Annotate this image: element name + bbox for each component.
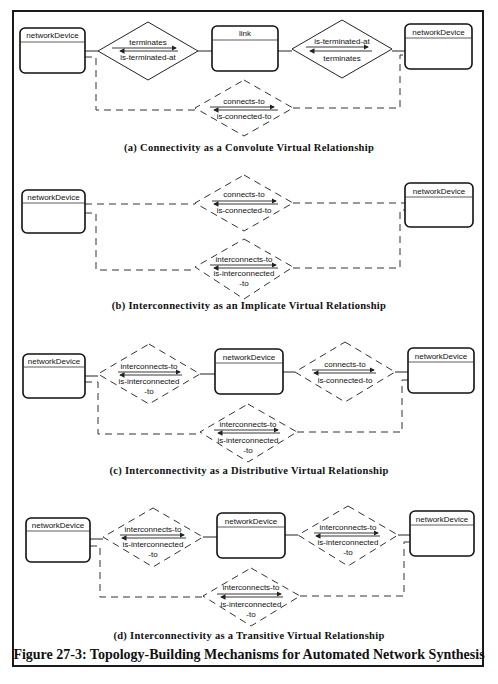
svg-text:is-connected-to: is-connected-to <box>217 206 272 215</box>
svg-text:terminates: terminates <box>129 38 166 47</box>
svg-text:networkDevice: networkDevice <box>225 517 278 526</box>
entity-network-device: networkDevice <box>217 513 285 558</box>
svg-text:networkDevice: networkDevice <box>413 187 466 196</box>
svg-text:interconnects-to: interconnects-to <box>216 255 273 264</box>
svg-text:networkDevice: networkDevice <box>415 352 468 361</box>
entity-network-device: networkDevice <box>405 183 473 227</box>
relationship-is-terminated-at: is-terminated-at terminates <box>292 20 392 78</box>
svg-text:-to: -to <box>144 387 154 396</box>
svg-text:link: link <box>239 29 252 38</box>
svg-text:interconnects-to: interconnects-to <box>223 583 280 592</box>
svg-text:-to: -to <box>243 446 253 455</box>
virtual-relationship-connects-to: connects-to is-connected-to <box>195 80 293 136</box>
svg-text:is-terminated-at: is-terminated-at <box>314 37 370 46</box>
svg-text:interconnects-to: interconnects-to <box>220 420 277 429</box>
svg-text:is-interconnected: is-interconnected <box>318 538 379 547</box>
svg-text:-to: -to <box>343 548 353 557</box>
entity-network-device: networkDevice <box>215 349 283 394</box>
virtual-relationship-interconnects-to: interconnects-to is-interconnected -to <box>200 404 297 462</box>
svg-text:connects-to: connects-to <box>324 360 366 369</box>
svg-text:networkDevice: networkDevice <box>416 515 469 524</box>
svg-text:is-interconnected: is-interconnected <box>123 540 184 549</box>
entity-network-device: networkDevice <box>22 190 85 233</box>
svg-text:-to: -to <box>246 610 256 619</box>
svg-text:is-interconnected: is-interconnected <box>218 436 279 445</box>
svg-text:-to: -to <box>148 550 158 559</box>
panel-caption-c: (c) Interconnectivity as a Distributive … <box>0 465 498 476</box>
svg-text:networkDevice: networkDevice <box>27 193 80 202</box>
virtual-relationship-connects-to: connects-to is-connected-to <box>295 342 395 402</box>
svg-text:interconnects-to: interconnects-to <box>320 523 377 532</box>
svg-text:is-connected-to: is-connected-to <box>318 376 373 385</box>
svg-text:networkDevice: networkDevice <box>26 31 79 40</box>
svg-text:is-terminated-at: is-terminated-at <box>120 53 176 62</box>
panel-b: networkDevice connects-to is-connected-t… <box>22 175 473 299</box>
svg-text:interconnects-to: interconnects-to <box>121 362 178 371</box>
entity-network-device: networkDevice <box>410 511 474 556</box>
svg-text:connects-to: connects-to <box>223 190 265 199</box>
panel-caption-d: (d) Interconnectivity as a Transitive Vi… <box>0 630 498 641</box>
figure-title: Figure 27-3: Topology-Building Mechanism… <box>0 647 498 663</box>
virtual-relationship-interconnects-to: interconnects-to is-interconnected -to <box>103 508 203 567</box>
relationship-terminates: terminates is-terminated-at <box>98 22 198 80</box>
svg-text:is-interconnected: is-interconnected <box>214 269 275 278</box>
entity-link: link <box>212 26 278 71</box>
entity-network-device: networkDevice <box>20 28 85 73</box>
entity-network-device: networkDevice <box>408 348 474 393</box>
entity-network-device: networkDevice <box>26 518 90 562</box>
svg-text:networkDevice: networkDevice <box>28 357 81 366</box>
panel-caption-b: (b) Interconnectivity as an Implicate Vi… <box>0 300 498 311</box>
panel-d: networkDevice interconnects-to is-interc… <box>26 506 474 626</box>
panel-a: networkDevice terminates is-terminated-a… <box>20 20 472 136</box>
svg-text:networkDevice: networkDevice <box>223 353 276 362</box>
svg-text:is-interconnected: is-interconnected <box>221 600 282 609</box>
svg-text:interconnects-to: interconnects-to <box>125 525 182 534</box>
virtual-relationship-interconnects-to: interconnects-to is-interconnected -to <box>203 568 300 626</box>
svg-text:networkDevice: networkDevice <box>32 521 85 530</box>
virtual-relationship-connects-to: connects-to is-connected-to <box>195 175 293 231</box>
svg-text:is-connected-to: is-connected-to <box>217 112 272 121</box>
virtual-relationship-interconnects-to: interconnects-to is-interconnected -to <box>98 344 200 404</box>
svg-text:connects-to: connects-to <box>223 97 265 106</box>
virtual-relationship-interconnects-to: interconnects-to is-interconnected -to <box>195 239 293 299</box>
virtual-relationship-interconnects-to: interconnects-to is-interconnected -to <box>298 506 398 566</box>
entity-network-device: networkDevice <box>405 24 472 69</box>
svg-text:-to: -to <box>239 279 249 288</box>
panel-c: networkDevice interconnects-to is-interc… <box>23 342 474 462</box>
diagram-canvas: networkDevice terminates is-terminated-a… <box>0 0 498 684</box>
panel-caption-a: (a) Connectivity as a Convolute Virtual … <box>0 142 498 153</box>
entity-network-device: networkDevice <box>23 354 85 398</box>
svg-text:is-interconnected: is-interconnected <box>119 377 180 386</box>
svg-text:terminates: terminates <box>323 54 360 63</box>
svg-text:networkDevice: networkDevice <box>412 28 465 37</box>
